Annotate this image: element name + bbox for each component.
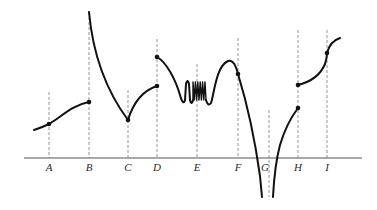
- curve-segment-d-e: [157, 57, 193, 103]
- curve-segment-b-c: [89, 12, 128, 120]
- dot-d-upper: [155, 55, 160, 60]
- label-f: F: [235, 162, 242, 173]
- dot-f: [236, 72, 241, 77]
- dot-h-upper: [296, 83, 301, 88]
- dot-d-lower: [155, 84, 160, 89]
- label-b: B: [86, 162, 93, 173]
- dot-i: [325, 51, 330, 56]
- function-graph: [0, 0, 377, 210]
- dot-h-lower: [296, 106, 301, 111]
- label-c: C: [124, 162, 131, 173]
- label-g: G: [261, 162, 269, 173]
- curve-segment-a-b: [34, 102, 89, 130]
- label-d: D: [153, 162, 161, 173]
- curve-segment-g-h: [273, 108, 298, 197]
- label-a: A: [46, 162, 53, 173]
- dot-a: [47, 122, 52, 127]
- label-i: I: [325, 162, 329, 173]
- curve-segment-e-g: [206, 61, 262, 197]
- dot-c: [126, 118, 131, 123]
- curve-segment-c-d: [128, 86, 157, 120]
- curve-segment-h-i: [298, 38, 340, 85]
- oscillation-e: [193, 82, 206, 100]
- label-h: H: [294, 162, 302, 173]
- dot-b: [87, 100, 92, 105]
- label-e: E: [194, 162, 201, 173]
